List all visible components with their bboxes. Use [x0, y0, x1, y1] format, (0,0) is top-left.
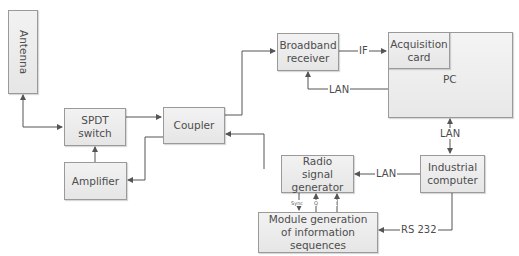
- spdt-switch-block: SPDT switch: [64, 108, 126, 146]
- broadband-receiver-label: Broadband receiver: [279, 39, 336, 65]
- q-label: Q: [314, 200, 318, 206]
- module-generation-label: Module generation of information sequenc…: [263, 213, 373, 252]
- acquisition-card-block: Acquisition card: [388, 32, 450, 69]
- lan-pc-industrial-label: LAN: [439, 128, 461, 139]
- antenna-label: Antenna: [17, 30, 30, 74]
- acquisition-card-label: Acquisition card: [390, 38, 448, 64]
- lan-receiver-label: LAN: [328, 84, 350, 95]
- antenna-block: Antenna: [8, 10, 38, 94]
- amplifier-block: Amplifier: [64, 162, 127, 200]
- amplifier-label: Amplifier: [72, 175, 119, 188]
- radio-signal-generator-block: Radio signal generator: [281, 155, 354, 193]
- pc-label: PC: [443, 73, 457, 86]
- industrial-computer-block: Industrial computer: [420, 155, 485, 193]
- rs232-label: RS 232: [400, 224, 438, 235]
- coupler-label: Coupler: [174, 119, 215, 132]
- lan-industrial-generator-label: LAN: [375, 168, 397, 179]
- coupler-block: Coupler: [163, 107, 225, 144]
- broadband-receiver-block: Broadband receiver: [277, 33, 339, 71]
- spdt-switch-label: SPDT switch: [73, 114, 117, 140]
- radio-signal-generator-label: Radio signal generator: [288, 155, 347, 194]
- i-label: I: [336, 200, 337, 206]
- industrial-computer-label: Industrial computer: [421, 161, 484, 187]
- if-label: IF: [358, 45, 369, 56]
- sync-label: Sync: [291, 200, 303, 206]
- module-generation-block: Module generation of information sequenc…: [258, 212, 378, 253]
